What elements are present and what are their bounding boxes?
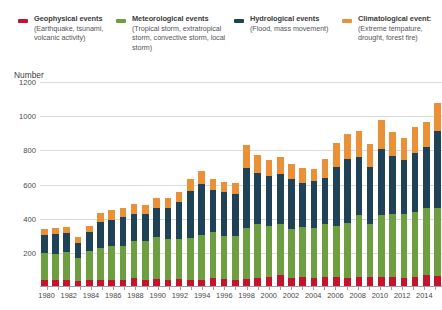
y-axis-tick-label: 400 xyxy=(23,214,36,223)
bar-segment-meteorological xyxy=(97,248,104,280)
bar-1997[interactable] xyxy=(232,183,239,287)
bar-segment-meteorological xyxy=(210,232,217,278)
bar-segment-hydrological xyxy=(232,194,239,236)
legend-sub-hydrological: (Flood, mass movement) xyxy=(250,24,328,33)
x-axis-tick xyxy=(102,287,103,290)
bar-segment-hydrological xyxy=(333,167,340,225)
bar-1989[interactable] xyxy=(142,205,149,287)
y-axis-tick-label: 1200 xyxy=(19,78,36,87)
bar-segment-climatological xyxy=(153,198,160,207)
bar-1990[interactable] xyxy=(153,198,160,287)
x-axis-tick xyxy=(369,287,370,290)
bar-segment-climatological xyxy=(142,205,149,214)
bar-2011[interactable] xyxy=(389,132,396,287)
bar-1992[interactable] xyxy=(176,192,183,287)
bar-segment-hydrological xyxy=(311,181,318,228)
y-axis-tick-label: 1000 xyxy=(19,112,36,121)
bar-1988[interactable] xyxy=(131,204,138,287)
bar-segment-hydrological xyxy=(243,168,250,228)
bar-segment-meteorological xyxy=(254,224,261,279)
bar-2000[interactable] xyxy=(266,160,273,287)
x-axis-tick-label: 1980 xyxy=(38,291,54,300)
bar-2002[interactable] xyxy=(288,164,295,287)
bar-1998[interactable] xyxy=(243,145,250,287)
bar-segment-meteorological xyxy=(378,215,385,277)
legend-item-climatological[interactable]: Climatological event: (Extreme tempature… xyxy=(338,14,442,66)
bar-segment-meteorological xyxy=(401,214,408,277)
bar-1984[interactable] xyxy=(86,226,93,287)
bar-segment-meteorological xyxy=(63,252,70,280)
bar-segment-climatological xyxy=(198,171,205,184)
x-axis-tick xyxy=(269,287,270,290)
x-axis-tick-label: 1984 xyxy=(83,291,99,300)
bar-2009[interactable] xyxy=(367,144,374,287)
bar-segment-meteorological xyxy=(333,226,340,277)
x-axis-tick-label: 2000 xyxy=(261,291,277,300)
bar-2008[interactable] xyxy=(356,131,363,287)
bar-segment-hydrological xyxy=(288,179,295,229)
bar-segment-meteorological xyxy=(165,239,172,280)
bar-segment-climatological xyxy=(344,134,351,159)
legend-swatch-climatological xyxy=(342,19,352,23)
bar-2013[interactable] xyxy=(412,127,419,287)
x-axis-tick-label: 2014 xyxy=(416,291,432,300)
bar-segment-meteorological xyxy=(423,208,430,275)
x-axis-tick xyxy=(258,287,259,290)
bar-2015[interactable] xyxy=(434,103,441,287)
x-axis-tick-label: 1990 xyxy=(149,291,165,300)
bar-1991[interactable] xyxy=(165,198,172,287)
bar-segment-hydrological xyxy=(277,174,284,224)
bar-1981[interactable] xyxy=(52,228,59,287)
bar-1985[interactable] xyxy=(97,213,104,287)
x-axis-tick xyxy=(424,287,425,290)
y-axis-tick-label: 800 xyxy=(23,146,36,155)
bar-2006[interactable] xyxy=(333,143,340,287)
bar-2001[interactable] xyxy=(277,157,284,287)
x-axis-tick xyxy=(158,287,159,290)
bar-1994[interactable] xyxy=(198,171,205,287)
bar-2003[interactable] xyxy=(299,168,306,287)
legend-item-hydrological[interactable]: Hydrological events (Flood, mass movemen… xyxy=(230,14,338,66)
bar-2007[interactable] xyxy=(344,134,351,287)
bar-segment-climatological xyxy=(423,122,430,147)
bar-segment-climatological xyxy=(434,103,441,130)
bar-1980[interactable] xyxy=(41,229,48,287)
x-axis-tick xyxy=(235,287,236,290)
bar-segment-climatological xyxy=(176,192,183,202)
legend-item-meteorological[interactable]: Meteorological events (Tropical storm, e… xyxy=(112,14,230,66)
bar-segment-meteorological xyxy=(142,241,149,280)
x-axis-tick-label: 2002 xyxy=(283,291,299,300)
bar-segment-climatological xyxy=(322,159,329,178)
bar-1987[interactable] xyxy=(120,208,127,287)
legend-item-geophysical[interactable]: Geophysical events (Earthquake, tsunami,… xyxy=(0,14,112,66)
bar-2014[interactable] xyxy=(423,122,430,287)
bar-segment-hydrological xyxy=(75,243,82,258)
x-axis-tick-label: 2006 xyxy=(327,291,343,300)
x-axis-tick-label: 1986 xyxy=(105,291,121,300)
x-axis-tick xyxy=(380,287,381,290)
x-axis-tick xyxy=(135,287,136,290)
bar-1986[interactable] xyxy=(108,210,115,287)
x-axis-tick xyxy=(402,287,403,290)
bar-2005[interactable] xyxy=(322,159,329,287)
bar-1982[interactable] xyxy=(63,227,70,287)
bar-2010[interactable] xyxy=(378,120,385,287)
legend-swatch-geophysical xyxy=(18,19,28,23)
x-axis-tick xyxy=(180,287,181,290)
bar-segment-hydrological xyxy=(108,220,115,246)
bar-segment-meteorological xyxy=(266,226,273,277)
bar-segment-meteorological xyxy=(277,224,284,275)
bar-1996[interactable] xyxy=(221,182,228,287)
bar-2012[interactable] xyxy=(401,138,408,287)
bar-1983[interactable] xyxy=(75,237,82,287)
bar-1999[interactable] xyxy=(254,155,261,287)
bar-1993[interactable] xyxy=(187,179,194,287)
bar-2004[interactable] xyxy=(311,169,318,287)
bar-segment-meteorological xyxy=(41,253,48,280)
x-axis-tick-label: 1994 xyxy=(194,291,210,300)
bar-segment-meteorological xyxy=(131,241,138,279)
legend-swatch-meteorological xyxy=(116,19,126,23)
legend-title-climatological: Climatological event: xyxy=(358,14,442,23)
bar-segment-climatological xyxy=(131,204,138,213)
bar-1995[interactable] xyxy=(210,179,217,287)
